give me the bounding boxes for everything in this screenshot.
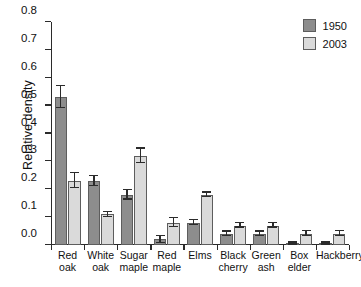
error-bar-cap — [189, 219, 198, 220]
y-tick: 0.8 — [45, 21, 51, 22]
x-axis-label-line: Sugar — [117, 250, 150, 262]
bar — [101, 214, 114, 245]
bar — [55, 97, 68, 245]
x-axis-label: Hackberry — [316, 250, 349, 262]
bar — [234, 226, 247, 246]
y-tick-label: 0.5 — [21, 88, 37, 100]
error-bar-cap — [235, 222, 244, 223]
x-axis-label-line: Hackberry — [316, 250, 349, 262]
bar-group — [319, 22, 345, 245]
bar — [121, 195, 134, 245]
error-bar-cap — [202, 191, 211, 192]
error-bar-cap — [288, 241, 297, 242]
x-axis-label-line: Elms — [183, 250, 216, 262]
y-tick: 0.3 — [45, 160, 51, 161]
error-bar-cap — [335, 230, 344, 231]
error-bar-cap — [56, 107, 65, 108]
error-bar-cap — [70, 187, 79, 188]
error-bar-cap — [222, 235, 231, 236]
legend-label: 2003 — [323, 38, 347, 50]
x-axis-label-line: maple — [150, 262, 183, 274]
bar-group — [220, 22, 246, 245]
error-bar-cap — [288, 243, 297, 244]
x-axis-label: Greenash — [250, 250, 283, 273]
error-bar-cap — [335, 235, 344, 236]
x-axis-label-line: oak — [84, 262, 117, 274]
x-axis-label-line: maple — [117, 262, 150, 274]
y-tick-label: 0.0 — [21, 227, 37, 239]
error-bar-cap — [123, 198, 132, 199]
bar-chart: Relative density 0.00.10.20.30.40.50.60.… — [0, 0, 361, 287]
error-bar-cap — [268, 226, 277, 227]
legend-item: 1950 — [303, 19, 347, 32]
error-bar-cap — [202, 196, 211, 197]
y-tick: 0.7 — [45, 49, 51, 50]
error-bar-cap — [156, 235, 165, 236]
x-axis-label-line: ash — [250, 262, 283, 274]
plot-area: 0.00.10.20.30.40.50.60.70.8 — [51, 22, 349, 245]
error-bar-cap — [169, 217, 178, 218]
x-axis-label-line: White — [84, 250, 117, 262]
error-bar-cap — [321, 243, 330, 244]
y-tick: 0.6 — [45, 77, 51, 78]
y-tick-label: 0.4 — [21, 116, 37, 128]
error-bar-cap — [136, 162, 145, 163]
x-axis-label-line: Red — [51, 250, 84, 262]
bar — [267, 226, 280, 246]
bar — [68, 181, 81, 245]
bar-group — [286, 22, 312, 245]
error-bar-cap — [255, 235, 264, 236]
y-tick-label: 0.6 — [21, 60, 37, 72]
y-tick-label: 0.2 — [21, 171, 37, 183]
legend-label: 1950 — [323, 20, 347, 32]
y-tick-label: 0.7 — [21, 32, 37, 44]
legend: 19502003 — [303, 19, 347, 55]
error-bar-cap — [235, 226, 244, 227]
bar-group — [253, 22, 279, 245]
error-bar-cap — [70, 172, 79, 173]
x-axis-label-line: oak — [51, 262, 84, 274]
x-axis-label: Elms — [183, 250, 216, 262]
error-bar-cap — [103, 211, 112, 212]
y-tick-label: 0.1 — [21, 199, 37, 211]
bar-group — [55, 22, 81, 245]
legend-swatch — [303, 19, 316, 32]
error-bar-cap — [222, 230, 231, 231]
bar — [187, 223, 200, 245]
x-axis-label: Boxelder — [283, 250, 316, 273]
error-bar-cap — [169, 226, 178, 227]
x-axis-label: Sugarmaple — [117, 250, 150, 273]
error-bar-cap — [136, 147, 145, 148]
x-axis-label-line: Black — [217, 250, 250, 262]
error-bar-cap — [89, 185, 98, 186]
x-axis-label: Blackcherry — [217, 250, 250, 273]
error-bar-cap — [268, 222, 277, 223]
y-tick: 0.5 — [45, 104, 51, 105]
bar-group — [88, 22, 114, 245]
legend-swatch — [303, 37, 316, 50]
error-bar-cap — [189, 224, 198, 225]
x-axis-label-line: Box — [283, 250, 316, 262]
bar — [134, 156, 147, 245]
error-bar-cap — [56, 85, 65, 86]
y-tick: 0.4 — [45, 132, 51, 133]
x-axis-label-line: elder — [283, 262, 316, 274]
bar-group — [121, 22, 147, 245]
error-bar — [60, 86, 61, 108]
x-axis-label: Redoak — [51, 250, 84, 273]
x-axis-label-line: Red — [150, 250, 183, 262]
x-axis-label-line: Green — [250, 250, 283, 262]
y-tick: 0.2 — [45, 188, 51, 189]
y-axis-line — [51, 22, 52, 245]
error-bar-cap — [89, 175, 98, 176]
y-tick-label: 0.8 — [21, 4, 37, 16]
legend-item: 2003 — [303, 37, 347, 50]
error-bar-cap — [321, 241, 330, 242]
bar — [201, 195, 214, 245]
x-axis-label-line: cherry — [217, 262, 250, 274]
y-tick-label: 0.3 — [21, 143, 37, 155]
x-axis-label: Redmaple — [150, 250, 183, 273]
error-bar-cap — [123, 189, 132, 190]
error-bar-cap — [156, 242, 165, 243]
error-bar-cap — [302, 230, 311, 231]
